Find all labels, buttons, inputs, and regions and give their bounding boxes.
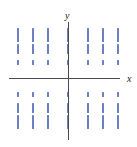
slope-segment bbox=[32, 115, 34, 129]
slope-segment bbox=[32, 103, 34, 113]
slope-segment bbox=[102, 44, 104, 54]
slope-segment bbox=[102, 92, 104, 97]
slope-segment bbox=[102, 103, 104, 113]
slope-segment bbox=[32, 28, 34, 42]
slope-segment bbox=[17, 44, 19, 54]
slope-segment bbox=[17, 60, 19, 65]
slope-segment bbox=[117, 44, 119, 54]
slope-segment bbox=[87, 60, 89, 65]
slope-segment bbox=[17, 115, 19, 129]
slope-segment bbox=[117, 28, 119, 42]
slope-segment bbox=[32, 44, 34, 54]
slope-segment bbox=[87, 28, 89, 42]
slope-segment bbox=[87, 115, 89, 129]
slope-segment bbox=[87, 103, 89, 113]
slope-segment bbox=[117, 115, 119, 129]
slope-segment bbox=[47, 92, 49, 97]
slope-segment bbox=[17, 103, 19, 113]
slope-segment bbox=[47, 28, 49, 42]
slope-segment bbox=[87, 44, 89, 54]
slope-segment bbox=[117, 92, 119, 97]
slope-segment bbox=[47, 60, 49, 65]
slope-segment bbox=[32, 60, 34, 65]
y-axis-label: y bbox=[65, 11, 69, 21]
slope-segment bbox=[17, 28, 19, 42]
slope-segment bbox=[87, 92, 89, 97]
slope-segment bbox=[102, 28, 104, 42]
slope-segment bbox=[47, 44, 49, 54]
slope-field-figure: x y bbox=[0, 0, 137, 147]
slope-segment bbox=[102, 60, 104, 65]
slope-segment bbox=[117, 60, 119, 65]
x-axis-label: x bbox=[127, 74, 131, 84]
x-axis-line bbox=[9, 78, 120, 79]
slope-segment bbox=[17, 92, 19, 97]
slope-segment bbox=[117, 103, 119, 113]
slope-segment bbox=[47, 115, 49, 129]
slope-segment bbox=[32, 92, 34, 97]
y-axis-line bbox=[68, 22, 69, 140]
slope-segment bbox=[102, 115, 104, 129]
slope-segment bbox=[47, 103, 49, 113]
